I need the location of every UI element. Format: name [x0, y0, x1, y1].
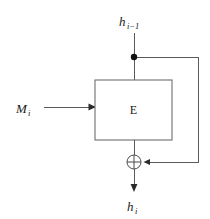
- diagram-canvas: h i−1 M i E h i: [0, 0, 210, 219]
- chaining-input-subscript: i−1: [127, 21, 139, 31]
- hash-construction-diagram: h i−1 M i E h i: [0, 0, 210, 219]
- chaining-output-arrowhead: [131, 184, 138, 192]
- chaining-input-label: h: [119, 14, 126, 29]
- message-input-label: M: [15, 101, 28, 116]
- chaining-output-subscript: i: [135, 206, 138, 216]
- cipher-block-label: E: [130, 103, 137, 117]
- feedback-junction-dot: [131, 54, 137, 60]
- message-input-subscript: i: [28, 108, 31, 118]
- feedback-arrowhead: [144, 159, 151, 165]
- chaining-output-label: h: [127, 199, 134, 214]
